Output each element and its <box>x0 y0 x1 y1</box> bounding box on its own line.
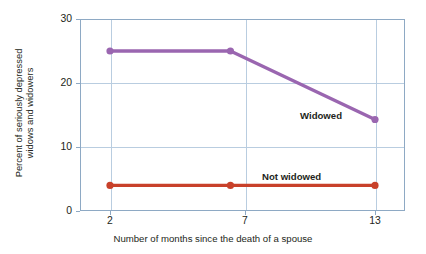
data-point <box>371 182 378 189</box>
chart-figure: Percent of seriously depressed widows an… <box>0 0 426 254</box>
data-point <box>106 47 113 54</box>
data-point <box>371 116 378 123</box>
data-point <box>227 182 234 189</box>
series-layer <box>0 0 426 254</box>
series-label-widowed: Widowed <box>300 110 342 121</box>
series-label-not-widowed: Not widowed <box>262 171 321 182</box>
data-point <box>227 47 234 54</box>
x-axis-title: Number of months since the death of a sp… <box>0 233 426 244</box>
data-point <box>106 182 113 189</box>
